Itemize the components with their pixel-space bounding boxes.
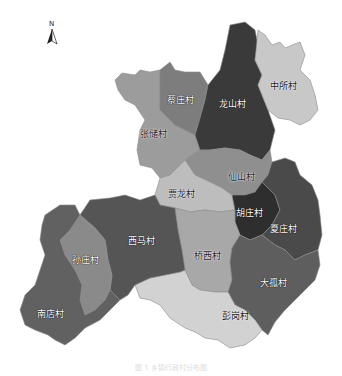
region-label: 彭岗村 <box>222 311 249 321</box>
region-label: 张储村 <box>140 129 167 139</box>
north-label: N <box>49 20 54 28</box>
village-map <box>0 0 342 376</box>
figure-caption: 图 1 乡镇行政村分布图 <box>0 362 342 372</box>
region-label: 仙山村 <box>228 172 255 182</box>
region-label: 南店村 <box>37 309 64 319</box>
region-label: 胡庄村 <box>236 208 263 218</box>
region-label: 孙庄村 <box>72 255 99 265</box>
region-label: 龙山村 <box>219 99 246 109</box>
region-label: 桥西村 <box>194 251 221 261</box>
region-label: 中所村 <box>270 81 297 91</box>
region-label: 西马村 <box>128 236 155 246</box>
region-label: 大孤村 <box>260 278 287 288</box>
region-label: 贾龙村 <box>168 189 195 199</box>
region-label: 夏庄村 <box>270 224 297 234</box>
north-arrow: N <box>44 20 64 50</box>
region-label: 蔡庄村 <box>167 95 194 105</box>
